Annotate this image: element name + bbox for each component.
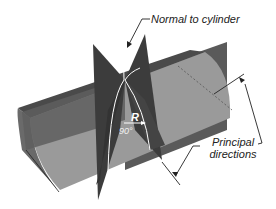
diagram-graphic (0, 0, 276, 209)
principal-label-line1: Principal (203, 136, 263, 148)
angle-label: 90° (119, 125, 133, 137)
normal-leader-arrowhead (127, 41, 132, 48)
principal-label-line2: directions (203, 148, 263, 160)
normal-leader-line (128, 19, 150, 46)
cylinder-principal-directions-diagram: Normal to cylinder Principal directions … (0, 0, 276, 209)
principal-leader-lower (176, 146, 200, 175)
normal-label: Normal to cylinder (151, 13, 240, 25)
principal-directions-label: Principal directions (203, 136, 263, 160)
principal-arrowhead-upper (239, 77, 245, 83)
radius-label: R (131, 111, 139, 123)
principal-leader-upper (245, 84, 262, 144)
